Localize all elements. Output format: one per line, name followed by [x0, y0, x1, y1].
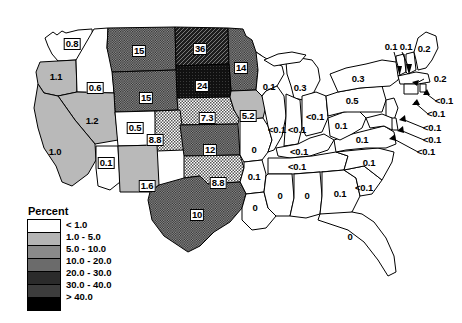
legend-label-5-10: 5.0 - 10.0: [66, 243, 111, 255]
legend-label-20-30: 20.0 - 30.0: [66, 267, 111, 279]
label-nv: 1.2: [86, 116, 99, 126]
label-wy: 15: [139, 92, 153, 104]
legend-label-lt1: < 1.0: [66, 219, 111, 231]
label-va: 0.1: [356, 135, 369, 145]
legend-title: Percent: [28, 205, 151, 217]
label-ut: 0.5: [127, 122, 144, 134]
label-ar: 0.1: [248, 172, 261, 182]
label-ms: 0: [277, 191, 282, 201]
legend-swatch-lt1: [28, 220, 60, 233]
label-nh: 0.1: [400, 42, 413, 52]
choropleth-map-figure: 0.8 1.1 0.6 1.2 1.0 0.5 0.1 15 15 8.8 1.…: [0, 0, 462, 323]
label-fl: 0: [347, 232, 352, 242]
legend-label-1-5: 1.0 - 5.0: [66, 231, 111, 243]
label-ma: 0.2: [434, 74, 447, 84]
legend-label-gt40: > 40.0: [66, 291, 111, 303]
label-md: <0.1: [417, 147, 435, 157]
legend-swatch-30-40: [28, 285, 60, 298]
label-ia: 5.2: [240, 110, 257, 122]
label-ct: <0.1: [427, 109, 445, 119]
legend-swatch-1-5: [28, 233, 60, 246]
label-mo: 0: [251, 145, 256, 155]
label-ky: <0.1: [290, 147, 308, 157]
label-nc: 0.1: [363, 158, 376, 168]
legend-label-10-20: 10.0 - 20.0: [66, 255, 111, 267]
label-ok: 8.8: [210, 177, 227, 189]
label-me: 0.2: [418, 44, 431, 54]
legend-swatch-20-30: [28, 272, 60, 285]
label-ga: 0.1: [334, 189, 347, 199]
label-al: 0: [304, 191, 309, 201]
label-oh: <0.1: [306, 112, 324, 122]
label-tn: <0.1: [288, 162, 306, 172]
label-mn: 14: [234, 62, 248, 74]
label-vt: 0.1: [385, 42, 398, 52]
legend-swatch-5-10: [28, 246, 60, 259]
label-la: 0: [252, 203, 257, 213]
label-in: <0.1: [288, 125, 306, 135]
label-wa: 0.8: [64, 38, 81, 50]
label-tx: 10: [190, 209, 204, 221]
label-ne: 7.3: [199, 112, 216, 124]
label-sc: <0.1: [355, 183, 373, 193]
legend-swatch-column: [27, 219, 61, 311]
label-wi: 0.1: [263, 82, 276, 92]
label-ks: 12: [203, 144, 217, 156]
state-ct: [404, 84, 418, 94]
label-pa: 0.5: [346, 96, 359, 106]
label-wv: 0.1: [335, 121, 348, 131]
state-fl: [318, 212, 396, 276]
legend-label-30-40: 30.0 - 40.0: [66, 279, 111, 291]
label-az: 0.1: [98, 157, 115, 169]
legend: Percent < 1.0 1.0 - 5.0 5.0 - 10.0 10.0 …: [27, 205, 151, 311]
label-ny: 0.3: [352, 74, 365, 84]
label-id: 0.6: [87, 82, 104, 94]
label-de: <0.1: [423, 135, 441, 145]
state-ri: [420, 84, 426, 92]
label-or: 1.1: [50, 72, 63, 82]
label-ca: 1.0: [49, 147, 62, 157]
state-wy: [112, 70, 178, 112]
legend-text-column: < 1.0 1.0 - 5.0 5.0 - 10.0 10.0 - 20.0 2…: [66, 219, 111, 311]
label-il: <0.1: [268, 125, 286, 135]
label-sd: 24: [195, 80, 209, 92]
label-nm: 1.6: [139, 180, 156, 192]
legend-swatch-gt40: [28, 298, 60, 310]
label-co: 8.8: [147, 134, 164, 146]
label-ri: <0.1: [435, 96, 453, 106]
label-nd: 36: [193, 43, 207, 55]
state-ny: [330, 60, 402, 92]
label-nj: <0.1: [423, 123, 441, 133]
label-mi: 0.3: [294, 83, 307, 93]
label-mt: 15: [132, 45, 146, 57]
state-in: [284, 94, 302, 146]
legend-swatch-10-20: [28, 259, 60, 272]
